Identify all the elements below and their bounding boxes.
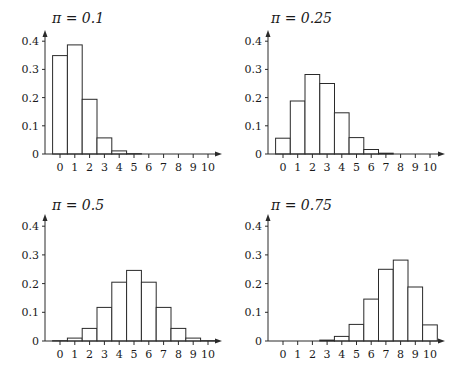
x-tick-label: 3	[324, 348, 331, 361]
x-tick-label: 9	[190, 348, 197, 361]
histogram-bar	[349, 138, 364, 154]
panel-pi-0-1: π = 0.1 01234567891000.10.20.30.4	[22, 10, 223, 174]
x-tick-label: 7	[382, 348, 389, 361]
histogram-bar	[349, 324, 364, 341]
histogram-bar	[276, 138, 291, 154]
histogram-bar	[67, 45, 82, 154]
panel-pi-0-25: π = 0.25 01234567891000.10.20.30.4	[245, 10, 446, 174]
histogram-bar	[305, 75, 320, 155]
y-tick-label: 0	[255, 148, 262, 161]
x-tick-label: 4	[338, 161, 345, 174]
x-tick-label: 3	[324, 161, 331, 174]
x-tick-label: 8	[397, 161, 404, 174]
panel-title: π = 0.75	[270, 197, 332, 213]
y-axis-arrow-icon	[266, 214, 271, 221]
y-axis-arrow-icon	[266, 30, 271, 37]
panel-title: π = 0.25	[270, 10, 332, 26]
x-tick-label: 9	[412, 161, 419, 174]
x-axis-arrow-icon	[438, 152, 445, 157]
y-tick-label: 0.1	[22, 120, 40, 133]
x-tick-label: 9	[412, 348, 419, 361]
y-tick-label: 0	[32, 335, 39, 348]
x-axis-arrow-icon	[215, 339, 222, 344]
x-tick-label: 6	[368, 348, 375, 361]
y-tick-label: 0.4	[22, 35, 40, 48]
y-tick-label: 0.2	[245, 92, 263, 105]
histogram-bar	[97, 307, 112, 341]
histogram-bar	[423, 325, 438, 341]
x-tick-label: 6	[145, 161, 152, 174]
y-tick-label: 0.1	[245, 120, 263, 133]
x-tick-label: 6	[368, 161, 375, 174]
panel-pi-0-5: π = 0.5 01234567891000.10.20.30.4	[22, 197, 223, 361]
x-tick-label: 6	[145, 348, 152, 361]
histogram-bar	[290, 101, 305, 154]
y-tick-label: 0.2	[22, 278, 40, 291]
x-tick-label: 1	[71, 348, 78, 361]
histogram-bar	[364, 150, 379, 155]
histogram-bar	[379, 269, 394, 341]
panel-title: π = 0.1	[51, 10, 104, 26]
x-tick-label: 0	[57, 161, 64, 174]
x-tick-label: 1	[294, 161, 301, 174]
x-tick-label: 5	[353, 161, 360, 174]
x-tick-label: 10	[423, 161, 437, 174]
histogram-bar	[82, 328, 97, 341]
histogram-bar	[156, 307, 171, 341]
y-tick-label: 0.4	[22, 220, 40, 233]
x-tick-label: 5	[353, 348, 360, 361]
x-tick-label: 7	[382, 161, 389, 174]
x-tick-label: 1	[71, 161, 78, 174]
histogram-bar	[334, 113, 349, 154]
x-tick-label: 7	[160, 161, 167, 174]
x-tick-label: 0	[280, 161, 287, 174]
histogram-bar	[334, 336, 349, 341]
histogram-bar	[127, 270, 142, 341]
x-tick-label: 0	[57, 348, 64, 361]
x-tick-label: 10	[201, 161, 215, 174]
y-tick-label: 0.4	[245, 35, 263, 48]
y-axis-arrow-icon	[43, 214, 48, 221]
panel-title: π = 0.5	[51, 197, 104, 213]
histogram-bar	[97, 138, 112, 154]
x-tick-label: 0	[280, 348, 287, 361]
y-tick-label: 0	[255, 335, 262, 348]
x-tick-label: 10	[423, 348, 437, 361]
y-tick-label: 0.4	[245, 220, 263, 233]
x-tick-label: 8	[397, 348, 404, 361]
x-tick-label: 2	[86, 161, 93, 174]
x-tick-label: 3	[101, 348, 108, 361]
histogram-bar	[53, 56, 68, 154]
histogram-bar	[82, 99, 97, 154]
histogram-bar	[171, 328, 186, 341]
y-axis-arrow-icon	[43, 30, 48, 37]
x-tick-label: 5	[131, 348, 138, 361]
x-tick-label: 9	[190, 161, 197, 174]
x-axis-arrow-icon	[215, 152, 222, 157]
y-tick-label: 0.3	[22, 63, 40, 76]
y-tick-label: 0.3	[245, 63, 263, 76]
x-tick-label: 10	[201, 348, 215, 361]
x-tick-label: 4	[338, 348, 345, 361]
histogram-bar	[112, 282, 127, 341]
x-tick-label: 2	[86, 348, 93, 361]
x-tick-label: 1	[294, 348, 301, 361]
x-tick-label: 8	[175, 161, 182, 174]
y-tick-label: 0.3	[245, 249, 263, 262]
y-tick-label: 0.2	[245, 278, 263, 291]
histogram-bar	[393, 260, 408, 341]
x-tick-label: 4	[116, 161, 123, 174]
histogram-bar	[364, 299, 379, 341]
y-tick-label: 0.2	[22, 92, 40, 105]
histogram-bar	[408, 287, 423, 341]
y-tick-label: 0.3	[22, 249, 40, 262]
x-tick-label: 2	[309, 348, 316, 361]
x-tick-label: 3	[101, 161, 108, 174]
x-tick-label: 7	[160, 348, 167, 361]
x-tick-label: 8	[175, 348, 182, 361]
binomial-distribution-figure: π = 0.1 01234567891000.10.20.30.4 π = 0.…	[0, 0, 471, 385]
x-tick-label: 4	[116, 348, 123, 361]
histogram-bar	[320, 84, 335, 155]
y-tick-label: 0	[32, 148, 39, 161]
panel-pi-0-75: π = 0.75 01234567891000.10.20.30.4	[245, 197, 446, 361]
